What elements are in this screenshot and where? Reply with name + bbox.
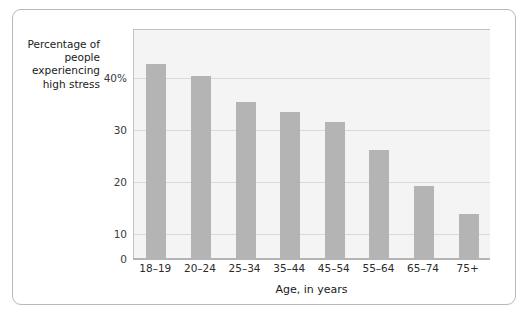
bar-7 [459, 214, 479, 259]
bar-6 [414, 186, 434, 259]
gridline-40 [134, 78, 490, 79]
gridline-10 [134, 234, 490, 235]
y-axis-label-line-2: people [14, 51, 100, 64]
gridline-30 [134, 130, 490, 131]
x-axis-label: Age, in years [133, 283, 490, 296]
x-tick-label-5: 55–64 [362, 262, 394, 274]
x-tick-label-1: 20–24 [184, 262, 216, 274]
bar-3 [280, 112, 300, 259]
y-tick-label-20: 20 [67, 176, 127, 188]
x-axis-line [133, 258, 490, 260]
bar-4 [325, 122, 345, 259]
y-tick-label-40: 40% [67, 72, 127, 84]
x-tick-label-2: 25–34 [229, 262, 261, 274]
bar-5 [369, 150, 389, 259]
bar-1 [191, 76, 211, 259]
x-tick-label-0: 18–19 [139, 262, 171, 274]
x-tick-label-4: 45–54 [318, 262, 350, 274]
y-tick-label-10: 10 [67, 228, 127, 240]
x-tick-label-7: 75+ [457, 262, 479, 274]
y-tick-label-0: 0 [67, 253, 127, 265]
bar-2 [236, 102, 256, 259]
bar-0 [146, 64, 166, 259]
y-tick-label-30: 30 [67, 124, 127, 136]
plot-area: 40% 30 20 10 0 [133, 29, 490, 259]
figure: Percentage of people experiencing high s… [0, 0, 530, 322]
gridline-20 [134, 182, 490, 183]
x-tick-label-3: 35–44 [273, 262, 305, 274]
y-axis-label-line-1: Percentage of [14, 38, 100, 51]
x-tick-label-6: 65–74 [407, 262, 439, 274]
